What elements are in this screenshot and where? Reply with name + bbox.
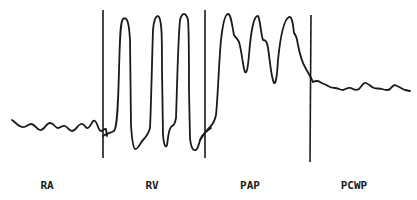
divider-pap-pcwp bbox=[310, 15, 311, 162]
rv-waveform bbox=[103, 14, 211, 150]
pap-waveform bbox=[200, 14, 311, 140]
label-rv: RV bbox=[145, 179, 159, 192]
label-pap: PAP bbox=[240, 179, 260, 192]
ra-waveform bbox=[12, 120, 107, 136]
label-ra: RA bbox=[40, 179, 54, 192]
pressure-waveform-diagram: RA RV PAP PCWP bbox=[0, 0, 417, 200]
label-pcwp: PCWP bbox=[341, 179, 368, 192]
pcwp-waveform bbox=[311, 78, 410, 91]
